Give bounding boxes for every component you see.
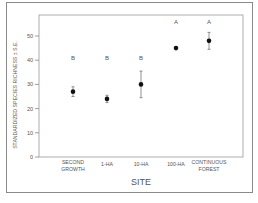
svg-text:10-HA: 10-HA xyxy=(134,161,149,167)
data-points: BBBAA xyxy=(71,19,212,103)
group-letter: B xyxy=(105,55,109,61)
svg-text:FOREST: FOREST xyxy=(198,166,220,172)
y-tick-label: 30 xyxy=(27,81,33,87)
group-letter: A xyxy=(207,19,211,25)
data-point: B xyxy=(139,55,144,98)
svg-text:1-HA: 1-HA xyxy=(101,161,113,167)
point-marker xyxy=(71,89,76,94)
x-tick-label: 10-HA xyxy=(134,161,149,167)
chart: 01020304050 BBBAA SECONDGROWTH1-HA10-HA1… xyxy=(0,0,258,203)
x-axis: SECONDGROWTH1-HA10-HA100-HACONTINUOUSFOR… xyxy=(61,159,227,172)
y-axis-title: STANDARDIZED SPECIES RICHNESS ± S.E. xyxy=(12,41,18,149)
group-letter: A xyxy=(174,19,178,25)
data-point: B xyxy=(71,55,76,97)
data-point: B xyxy=(105,55,110,103)
y-axis: 01020304050 xyxy=(27,33,39,160)
svg-text:SECOND: SECOND xyxy=(62,159,84,165)
x-tick-label: 100-HA xyxy=(167,161,185,167)
svg-text:GROWTH: GROWTH xyxy=(61,166,85,172)
y-tick-label: 40 xyxy=(27,57,33,63)
group-letter: B xyxy=(139,55,143,61)
point-marker xyxy=(105,97,110,102)
data-point: A xyxy=(174,19,179,50)
x-tick-label: CONTINUOUSFOREST xyxy=(192,159,227,172)
x-tick-label: 1-HA xyxy=(101,161,113,167)
svg-text:100-HA: 100-HA xyxy=(167,161,185,167)
y-tick-label: 10 xyxy=(27,130,33,136)
point-marker xyxy=(207,39,212,44)
svg-text:CONTINUOUS: CONTINUOUS xyxy=(192,159,227,165)
point-marker xyxy=(174,46,179,51)
point-marker xyxy=(139,82,144,87)
x-axis-title: SITE xyxy=(131,177,151,187)
y-tick-label: 50 xyxy=(27,33,33,39)
group-letter: B xyxy=(71,55,75,61)
y-tick-label: 0 xyxy=(30,154,33,160)
data-point: A xyxy=(207,19,212,49)
y-tick-label: 20 xyxy=(27,106,33,112)
x-tick-label: SECONDGROWTH xyxy=(61,159,85,172)
